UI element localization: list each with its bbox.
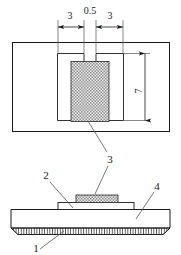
- callout-label-4: 4: [154, 180, 160, 192]
- dimension-label-right-3: 3: [108, 10, 113, 21]
- engineering-drawing: 3 0.5 3 7 3 2 4 1: [0, 0, 181, 255]
- dimension-label-center-0p5: 0.5: [84, 5, 97, 16]
- callout-label-2: 2: [43, 169, 49, 181]
- callout-label-3: 3: [107, 153, 113, 165]
- bottom-comb-layer: [11, 228, 170, 235]
- dimension-label-left-3: 3: [68, 10, 73, 21]
- hatched-element-block: [71, 62, 109, 122]
- top-hatched-element: [76, 195, 118, 203]
- dimension-label-vertical-7: 7: [133, 89, 144, 94]
- callout-label-1: 1: [33, 242, 39, 254]
